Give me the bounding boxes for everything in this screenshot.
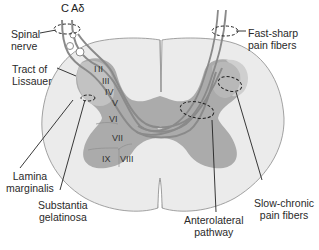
label-substantia-gelatinosa: Substantiagelatinosa [38,199,88,223]
lamina-vii: VII [112,133,123,143]
label-lamina-marginalis: Laminamarginalis [6,170,54,194]
lamina-i: I [94,64,97,74]
label-a-delta-fiber: Aδ [71,2,84,14]
label-slow-chronic-pain-fibers: Slow-chronicpain fibers [254,197,314,221]
label-anterolateral-pathway: Anterolateralpathway [184,214,244,238]
lamina-vi: VI [109,114,118,124]
lamina-ix: IX [102,154,111,164]
lamina-iv: IV [105,87,114,97]
spinal-nerve-ellipse [54,24,80,34]
label-spinal-nerve: Spinalnerve [11,28,40,52]
lamina-v: V [112,98,118,108]
lamina-ii: II [98,64,103,74]
label-c-fiber: C [61,2,69,14]
lamina-iii: III [102,76,110,86]
label-fast-sharp-pain-fibers: Fast-sharppain fibers [248,27,298,51]
label-tract-of-lissauer: Tract ofLissauer [12,63,52,87]
lamina-viii: VIII [120,154,134,164]
